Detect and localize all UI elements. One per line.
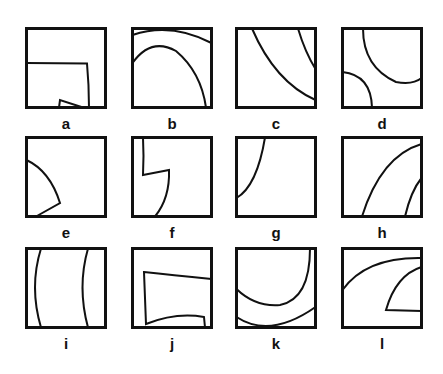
panel-g-drawing <box>235 136 317 218</box>
panel-f <box>131 136 213 218</box>
panel-j-drawing <box>131 247 213 329</box>
panel-k-drawing <box>235 247 317 329</box>
panel-i-drawing <box>25 247 107 329</box>
panel-label-d: d <box>341 116 423 132</box>
panel-j <box>131 247 213 329</box>
panel-b-drawing <box>131 27 213 109</box>
panel-label-h: h <box>341 225 423 241</box>
panel-h <box>341 136 423 218</box>
panel-i <box>25 247 107 329</box>
panel-l <box>341 247 423 329</box>
panel-c <box>235 27 317 109</box>
panel-f-drawing <box>131 136 213 218</box>
panel-d <box>341 27 423 109</box>
panel-h-drawing <box>341 136 423 218</box>
panel-c-drawing <box>235 27 317 109</box>
panel-b <box>131 27 213 109</box>
panel-label-c: c <box>235 116 317 132</box>
panel-e-drawing <box>25 136 107 218</box>
panel-label-j: j <box>131 336 213 352</box>
panel-l-drawing <box>341 247 423 329</box>
panel-label-l: l <box>341 336 423 352</box>
panel-g <box>235 136 317 218</box>
panel-label-b: b <box>131 116 213 132</box>
panel-a-drawing <box>25 27 107 109</box>
panel-e <box>25 136 107 218</box>
panel-label-e: e <box>25 225 107 241</box>
panel-label-a: a <box>25 116 107 132</box>
panel-d-drawing <box>341 27 423 109</box>
panel-k <box>235 247 317 329</box>
panel-a <box>25 27 107 109</box>
panel-label-k: k <box>235 336 317 352</box>
panel-label-i: i <box>25 336 107 352</box>
panel-label-g: g <box>235 225 317 241</box>
panel-label-f: f <box>131 225 213 241</box>
